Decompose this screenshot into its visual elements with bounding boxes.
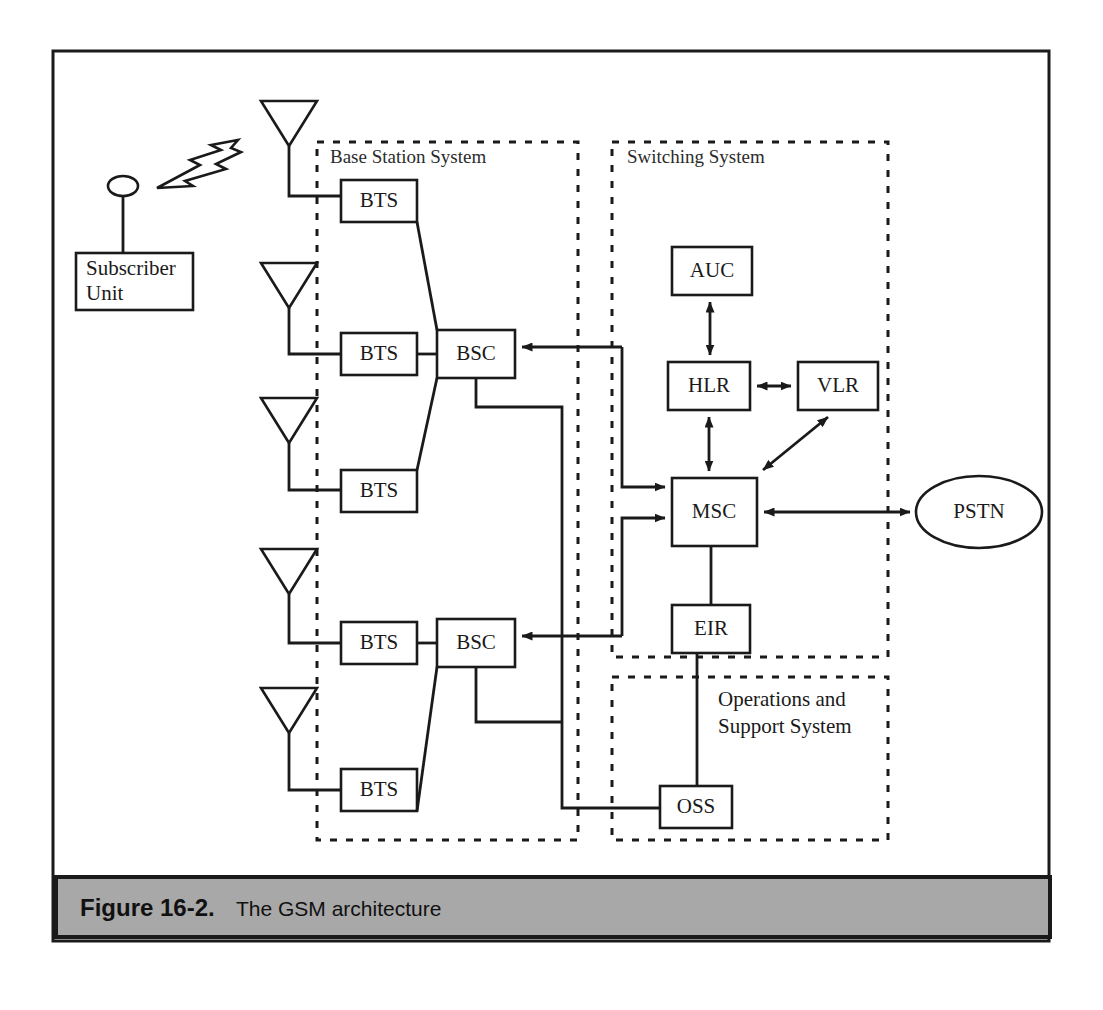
figure-container: Base Station System Switching System Ope… xyxy=(0,0,1103,1010)
bts-label-1: BTS xyxy=(360,188,399,212)
hlr-label: HLR xyxy=(688,373,730,397)
auc-label: AUC xyxy=(690,258,734,282)
bts-label-5: BTS xyxy=(360,777,399,801)
bts-label-2: BTS xyxy=(360,341,399,365)
switching-system-label: Switching System xyxy=(627,146,765,167)
figure-number: Figure 16-2. xyxy=(80,894,215,921)
vlr-label: VLR xyxy=(817,373,859,397)
subscriber-unit-label-line2: Unit xyxy=(86,281,124,305)
bsc-label-upper: BSC xyxy=(456,341,496,365)
figure-title: The GSM architecture xyxy=(236,897,441,920)
subscriber-unit-label-line1: Subscriber xyxy=(86,256,176,280)
operations-support-system-label-line2: Support System xyxy=(718,714,852,738)
oss-label: OSS xyxy=(677,794,716,818)
bts-label-4: BTS xyxy=(360,630,399,654)
bsc-label-lower: BSC xyxy=(456,630,496,654)
operations-support-system-label-line1: Operations and xyxy=(718,687,846,711)
base-station-system-label: Base Station System xyxy=(330,146,486,167)
bts-label-3: BTS xyxy=(360,478,399,502)
eir-label: EIR xyxy=(694,616,728,640)
msc-label: MSC xyxy=(692,499,736,523)
pstn-label: PSTN xyxy=(953,499,1004,523)
